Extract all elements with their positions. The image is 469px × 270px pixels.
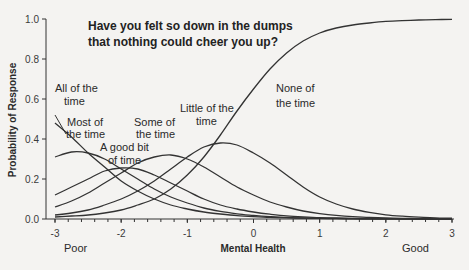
- curves: [55, 19, 452, 219]
- chart-title-line-1: Have you felt so down in the dumps: [88, 19, 293, 33]
- y-tick-label: 0.6: [25, 94, 39, 105]
- label-some-of-the-time-2: the time: [136, 128, 175, 140]
- x-end-label-poor: Poor: [64, 242, 88, 254]
- y-tick-label: 0.8: [25, 54, 39, 65]
- label-some-of-the-time-1: Some of: [134, 116, 176, 128]
- chart-title: Have you felt so down in the dumps that …: [88, 19, 293, 49]
- x-tick-label: 1: [317, 228, 323, 239]
- x-tick-label: 2: [383, 228, 389, 239]
- label-little-of-the-time-2: time: [196, 115, 217, 127]
- curve-none-of-the-time: [55, 19, 452, 217]
- label-none-of-the-time-1: None of: [276, 82, 315, 94]
- x-tick-label: -2: [117, 228, 126, 239]
- y-tick-label: 0.2: [25, 174, 39, 185]
- label-little-of-the-time-1: Little of the: [180, 102, 234, 114]
- label-most-of-the-time-1: Most of: [67, 116, 104, 128]
- y-tick-label: 0.4: [25, 134, 39, 145]
- curve-annotations: All of the time Most of the time A good …: [55, 82, 315, 166]
- x-tick-label: -3: [51, 228, 60, 239]
- label-none-of-the-time-2: the time: [276, 97, 315, 109]
- item-response-chart: 0.00.20.40.60.81.0 -3-2-10123 Have you f…: [0, 0, 469, 270]
- x-axis-title: Mental Health: [220, 243, 285, 254]
- x-tick-label: -1: [183, 228, 192, 239]
- y-tick-label: 0.0: [25, 214, 39, 225]
- label-all-of-the-time-2: time: [64, 95, 85, 107]
- y-tick-label: 1.0: [25, 14, 39, 25]
- label-good-bit-2: of time: [108, 154, 141, 166]
- y-axis-title: Probability of Response: [7, 62, 18, 177]
- x-tick-label: 3: [449, 228, 455, 239]
- label-good-bit-1: A good bit: [100, 141, 149, 153]
- label-most-of-the-time-2: the time: [66, 128, 105, 140]
- x-ticks: -3-2-10123: [51, 219, 456, 239]
- y-ticks: 0.00.20.40.60.81.0: [25, 14, 46, 225]
- x-tick-label: 0: [251, 228, 257, 239]
- label-all-of-the-time-1: All of the: [55, 82, 98, 94]
- chart-title-line-2: that nothing could cheer you up?: [88, 35, 278, 49]
- curve-all-of-the-time: [55, 123, 452, 219]
- x-end-label-good: Good: [402, 242, 429, 254]
